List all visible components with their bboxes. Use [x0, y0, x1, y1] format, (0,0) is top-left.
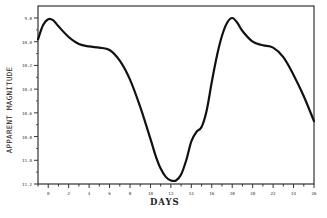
y-tick-label: 10.2 — [22, 63, 33, 68]
x-tick-label: 8 — [129, 191, 132, 196]
x-tick-label: 2 — [67, 191, 70, 196]
x-tick-label: 6 — [108, 191, 111, 196]
x-tick-label: 10 — [148, 191, 154, 196]
y-axis-label: APPARENT MAGNITUDE — [2, 40, 16, 180]
light-curve-chart: 9.810.010.210.410.610.811.011.2024681012… — [0, 0, 327, 218]
x-tick-label: 24 — [291, 191, 297, 196]
y-tick-label: 11.2 — [22, 182, 33, 187]
y-tick-label: 9.8 — [24, 16, 32, 21]
x-tick-label: 4 — [88, 191, 91, 196]
y-tick-label: 10.8 — [22, 135, 33, 140]
x-tick-label: 12 — [168, 191, 174, 196]
y-tick-label: 10.4 — [22, 87, 33, 92]
x-tick-label: 18 — [230, 191, 236, 196]
y-tick-label: 10.6 — [22, 111, 33, 116]
x-axis-label: DAYS — [150, 197, 180, 207]
x-tick-label: 26 — [311, 191, 317, 196]
light-curve-line — [38, 18, 314, 181]
y-tick-label: 11.0 — [22, 158, 33, 163]
y-axis-label-text: APPARENT MAGNITUDE — [5, 67, 14, 154]
x-tick-label: 16 — [209, 191, 215, 196]
x-tick-label: 0 — [47, 191, 50, 196]
plot-frame — [38, 6, 314, 184]
x-tick-label: 14 — [189, 191, 195, 196]
x-tick-label: 20 — [250, 191, 256, 196]
x-tick-label: 22 — [271, 191, 277, 196]
y-tick-label: 10.0 — [22, 40, 33, 45]
